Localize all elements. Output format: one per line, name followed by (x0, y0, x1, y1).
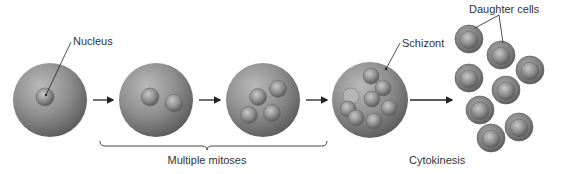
daughter-cells-label: Daughter cells (469, 3, 540, 15)
schizont-pointer (386, 43, 400, 69)
brace (100, 141, 327, 150)
schizont-label: Schizont (402, 37, 444, 49)
cell-uninucleate (13, 42, 87, 137)
schizogony-diagram: Nucleus Schizont (0, 0, 562, 174)
nucleus-label: Nucleus (73, 35, 113, 47)
multiple-mitoses-label: Multiple mitoses (168, 154, 247, 166)
nucleus-icon (36, 88, 54, 106)
daughter-cells (455, 15, 544, 152)
cell-binucleate (119, 63, 193, 137)
cell-tetranucleate (226, 63, 300, 137)
cytokinesis-label: Cytokinesis (409, 154, 466, 166)
schizont-cell (332, 43, 408, 138)
